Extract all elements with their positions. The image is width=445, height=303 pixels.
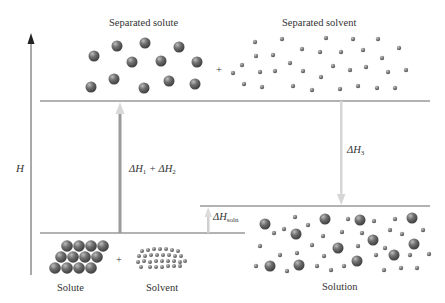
delta-hsoln: ΔH — [213, 211, 227, 222]
solution-small-particles — [254, 215, 431, 273]
enthalpy-diagram — [0, 0, 445, 303]
dhsoln-label: ΔHsoln — [213, 211, 238, 224]
delta-h3: ΔH — [347, 144, 361, 155]
solute-label: Solute — [57, 282, 84, 293]
plus-sign-top: + — [216, 64, 222, 75]
solution-label: Solution — [322, 281, 358, 292]
axis-label-h: H — [16, 162, 24, 174]
dhsoln-arrow — [205, 207, 213, 233]
solution-large-particles — [260, 213, 420, 272]
subscript-soln: soln — [227, 216, 239, 224]
plus-sign-bottom: + — [116, 254, 122, 265]
arrow-up-icon — [116, 102, 125, 114]
arrow-down-icon — [337, 194, 346, 205]
dh3-label: ΔH3 — [347, 144, 364, 157]
plus-delta-h2: + ΔH — [146, 163, 172, 174]
solvent-cluster-particles — [136, 247, 187, 269]
dh3-arrow — [337, 101, 346, 205]
arrow-up-icon — [205, 207, 213, 217]
separated-solvent-label: Separated solvent — [282, 17, 356, 28]
dh1-dh2-arrow — [116, 102, 125, 233]
solvent-label: Solvent — [146, 282, 178, 293]
separated-solvent-particles — [231, 36, 408, 92]
delta-h1: ΔH — [129, 163, 143, 174]
enthalpy-axis — [28, 33, 35, 275]
dh1-dh2-label: ΔH1 + ΔH2 — [129, 163, 176, 176]
axis-arrow-icon — [28, 33, 35, 44]
subscript-3: 3 — [361, 149, 365, 157]
separated-solute-particles — [86, 38, 203, 94]
separated-solute-label: Separated solute — [109, 17, 178, 28]
solute-crystal-particles — [49, 240, 109, 274]
subscript-2: 2 — [172, 168, 176, 176]
